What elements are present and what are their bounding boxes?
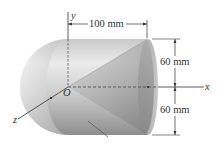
cone-base-center-dot [147, 86, 149, 88]
lower-radius-label: 60 mm [160, 105, 189, 116]
composite-solid-diagram: y 100 mm 60 mm 60 mm x O z [0, 0, 222, 147]
origin-label: O [63, 88, 71, 99]
upper-radius-label: 60 mm [160, 57, 189, 68]
y-axis-label: y [71, 11, 76, 22]
length-dimension-label: 100 mm [89, 19, 124, 30]
z-axis-label: z [13, 115, 17, 126]
x-axis-label: x [205, 82, 210, 93]
z-axis-dot [50, 97, 52, 99]
